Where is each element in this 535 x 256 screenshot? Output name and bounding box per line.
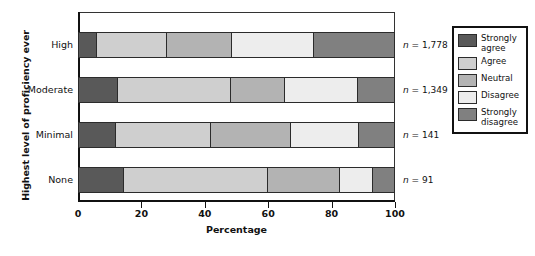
legend-item[interactable]: Disagree	[458, 90, 522, 104]
x-tick-label: 100	[385, 208, 405, 219]
segment-neutral	[167, 33, 232, 57]
segment-strongly-agree	[79, 168, 124, 192]
segment-strongly-agree	[79, 123, 116, 147]
legend-label: Neutral	[481, 73, 513, 83]
x-tick-label: 0	[75, 208, 82, 219]
n-prefix: n =	[403, 85, 422, 95]
n-value: 1,349	[422, 85, 448, 95]
stacked-bar-high[interactable]	[78, 32, 395, 58]
segment-strongly-disagree	[358, 78, 394, 102]
segment-strongly-disagree	[359, 123, 394, 147]
category-label-none: None	[0, 167, 73, 193]
legend-item[interactable]: Strongly agree	[458, 33, 522, 53]
legend-label: Agree	[481, 56, 506, 66]
segment-disagree	[232, 33, 314, 57]
x-axis-tick-labels: 020406080100	[78, 208, 395, 222]
x-tick-label: 40	[198, 208, 211, 219]
legend-swatch-strongly-agree	[458, 34, 477, 47]
segment-strongly-agree	[79, 33, 97, 57]
segment-agree	[116, 123, 211, 147]
n-value: 141	[422, 130, 439, 140]
bar-row: None n = 91	[78, 167, 395, 193]
segment-strongly-disagree	[314, 33, 394, 57]
segment-neutral	[268, 168, 340, 192]
legend-swatch-strongly-disagree	[458, 108, 477, 121]
n-prefix: n =	[403, 130, 422, 140]
legend-label: Disagree	[481, 90, 519, 100]
n-prefix: n =	[403, 40, 422, 50]
legend: Strongly agree Agree Neutral Disagree St…	[452, 26, 528, 134]
legend-item[interactable]: Neutral	[458, 73, 522, 87]
category-label-high: High	[0, 32, 73, 58]
legend-label: Strongly disagree	[481, 107, 522, 127]
x-tick-label: 60	[262, 208, 275, 219]
legend-item[interactable]: Agree	[458, 56, 522, 70]
category-label-moderate: Moderate	[0, 77, 73, 103]
category-label-minimal: Minimal	[0, 122, 73, 148]
segment-agree	[118, 78, 230, 102]
segment-strongly-agree	[79, 78, 118, 102]
segment-disagree	[340, 168, 372, 192]
n-prefix: n =	[403, 175, 422, 185]
segment-strongly-disagree	[373, 168, 394, 192]
legend-item[interactable]: Strongly disagree	[458, 107, 522, 127]
n-annotation-none: n = 91	[403, 167, 483, 193]
plot-area: High n = 1,778 Moderate n = 1,349 Mi	[78, 12, 395, 202]
stacked-bar-none[interactable]	[78, 167, 395, 193]
legend-label: Strongly agree	[481, 33, 522, 53]
x-tick-label: 20	[135, 208, 148, 219]
n-value: 91	[422, 175, 433, 185]
stacked-bar-minimal[interactable]	[78, 122, 395, 148]
x-tick-label: 80	[325, 208, 338, 219]
segment-disagree	[285, 78, 357, 102]
legend-swatch-disagree	[458, 91, 477, 104]
segment-agree	[124, 168, 268, 192]
x-axis-title: Percentage	[78, 224, 395, 235]
stacked-bar-moderate[interactable]	[78, 77, 395, 103]
bar-row: High n = 1,778	[78, 32, 395, 58]
legend-swatch-agree	[458, 57, 477, 70]
segment-neutral	[231, 78, 286, 102]
stacked-bar-chart-figure: Highest level of proficiency ever High n…	[0, 0, 535, 256]
legend-swatch-neutral	[458, 74, 477, 87]
bar-row: Moderate n = 1,349	[78, 77, 395, 103]
segment-neutral	[211, 123, 291, 147]
bar-row: Minimal n = 141	[78, 122, 395, 148]
segment-disagree	[291, 123, 359, 147]
segment-agree	[97, 33, 168, 57]
n-value: 1,778	[422, 40, 448, 50]
